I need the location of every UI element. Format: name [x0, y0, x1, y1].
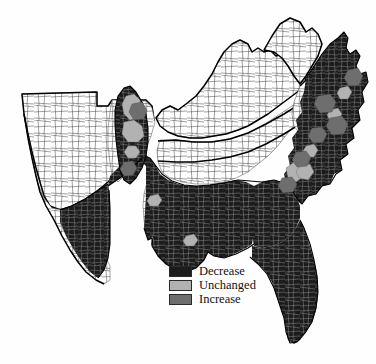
legend-label-increase: Increase [199, 293, 241, 306]
map-legend: Decrease Unchanged Increase [169, 265, 256, 306]
legend-row-increase: Increase [169, 293, 256, 306]
legend-row-decrease: Decrease [169, 265, 256, 278]
legend-swatch-decrease [169, 266, 192, 277]
choropleth-map-canvas [0, 0, 376, 364]
legend-label-decrease: Decrease [199, 265, 245, 278]
map-figure: Decrease Unchanged Increase [0, 0, 376, 364]
legend-swatch-increase [169, 294, 192, 305]
legend-row-unchanged: Unchanged [169, 279, 256, 292]
legend-label-unchanged: Unchanged [199, 279, 256, 292]
legend-swatch-unchanged [169, 280, 192, 291]
